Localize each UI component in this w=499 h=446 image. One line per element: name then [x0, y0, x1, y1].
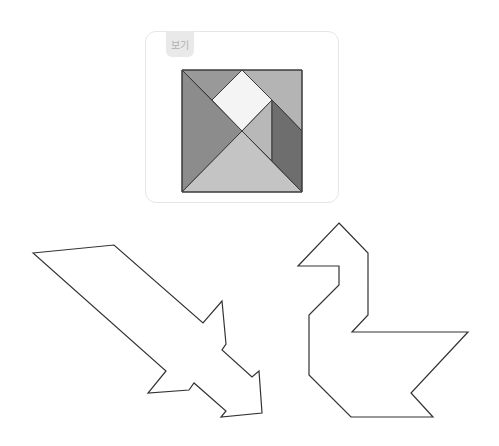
tangram-square: [182, 70, 302, 192]
arrow-sword-outline: [33, 245, 262, 417]
swan-outline: [298, 223, 468, 417]
tangram-figures: [0, 0, 499, 446]
